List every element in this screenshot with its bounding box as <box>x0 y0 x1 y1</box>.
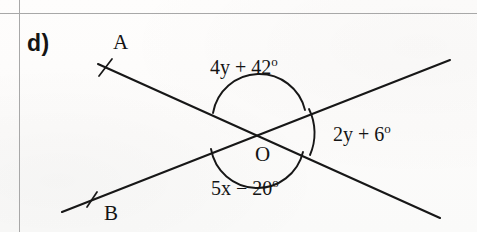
tick-mark-a-icon <box>99 59 112 76</box>
point-label-o: O <box>255 142 270 167</box>
angle-bottom-expr: 5x − 20 <box>211 177 272 199</box>
degree-symbol-right: o <box>384 121 391 136</box>
angle-top-expr: 4y + 42 <box>210 56 271 78</box>
angle-expression-bottom: 5x − 20o <box>211 177 279 200</box>
angle-arc-top <box>213 74 305 113</box>
angle-expression-right: 2y + 6o <box>333 123 391 146</box>
worksheet-page: d) A B O 4y + 42o 2y + 6o 5x − 20o <box>0 0 477 232</box>
angle-expression-top: 4y + 42o <box>210 56 278 79</box>
point-label-a: A <box>113 30 128 55</box>
degree-symbol-bottom: o <box>272 175 279 190</box>
degree-symbol-top: o <box>271 54 278 69</box>
angle-right-expr: 2y + 6 <box>333 123 384 145</box>
point-label-b: B <box>104 201 118 226</box>
